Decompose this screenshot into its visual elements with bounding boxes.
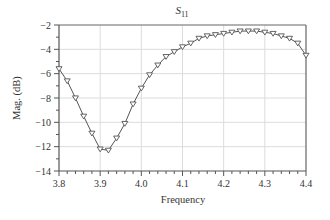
triangle-down-marker [81, 114, 87, 119]
triangle-down-marker [295, 41, 301, 46]
triangle-down-marker [122, 121, 128, 126]
triangle-down-marker [64, 79, 70, 84]
y-tick-label: −8 [40, 93, 51, 104]
x-tick-label: 4.1 [176, 178, 189, 189]
x-tick-label: 4.4 [300, 178, 313, 189]
triangle-down-marker [188, 41, 194, 46]
triangle-down-marker [130, 102, 136, 107]
x-tick-label: 3.8 [53, 178, 66, 189]
x-tick-label: 4.0 [135, 178, 148, 189]
x-tick-label: 4.3 [259, 178, 272, 189]
y-tick-labels: −2−4−6−8−10−12−14 [35, 20, 51, 177]
triangle-down-marker [171, 50, 177, 55]
chart-title-sub: 11 [181, 10, 189, 19]
x-axis-label: Frequency [161, 194, 206, 205]
y-tick-label: −12 [35, 141, 51, 152]
triangle-down-marker [196, 36, 202, 41]
triangle-down-marker [105, 148, 111, 153]
triangle-down-marker [114, 136, 120, 141]
y-axis-label: Mag. (dB) [11, 76, 23, 120]
triangle-down-marker [287, 36, 293, 41]
y-tick-label: −14 [35, 166, 51, 177]
triangle-down-marker [303, 53, 309, 58]
x-tick-labels: 3.83.94.04.14.24.34.4 [53, 178, 313, 189]
chart-title: S11 [175, 4, 188, 19]
y-tick-label: −6 [40, 68, 51, 79]
triangle-down-marker [147, 73, 153, 78]
y-tick-label: −2 [40, 20, 51, 31]
s11-chart: 3.83.94.04.14.24.34.4 −2−4−6−8−10−12−14 … [0, 0, 330, 220]
x-tick-label: 3.9 [94, 178, 107, 189]
x-tick-label: 4.2 [217, 178, 230, 189]
y-tick-label: −10 [35, 117, 51, 128]
triangle-down-marker [89, 131, 95, 136]
triangle-down-marker [56, 67, 62, 72]
y-tick-label: −4 [40, 44, 51, 55]
tick-marks [54, 25, 306, 176]
triangle-down-marker [138, 86, 144, 91]
